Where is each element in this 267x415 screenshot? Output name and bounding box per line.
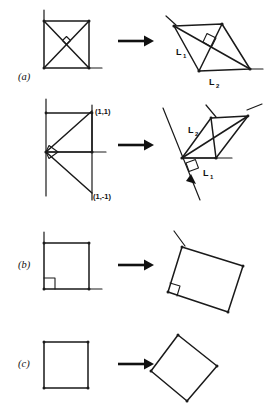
- vertex-dot: [43, 288, 46, 291]
- right-angle-marker: [186, 160, 198, 172]
- vertex-dot: [210, 117, 213, 120]
- segment-label-L1: L: [203, 168, 209, 178]
- vertex-dot: [227, 311, 230, 314]
- source-square-right-angle: [43, 232, 103, 291]
- axis-line-tilted: [163, 108, 200, 200]
- hypotenuse-lower: [46, 152, 92, 193]
- vertex-dot: [247, 115, 250, 118]
- vertex-dot: [197, 69, 200, 72]
- target-sheared-triangle-pair: L 2 L 1: [163, 104, 262, 200]
- shear-inner-edge: [211, 118, 216, 158]
- right-angle-marker: [44, 278, 55, 289]
- square-outline: [44, 342, 88, 388]
- row-4-group: [43, 334, 219, 403]
- point-label-1-1: (1,1): [95, 107, 111, 116]
- figure-container: L 1 L 2 (a): [0, 0, 267, 415]
- vertex-dot: [177, 334, 180, 337]
- vertex-dot: [180, 156, 183, 159]
- segment-label-L1-subscript: 1: [210, 174, 214, 180]
- vertex-dot: [88, 20, 91, 23]
- vertex-dot: [150, 370, 153, 373]
- target-rotated-rectangle: [167, 231, 245, 314]
- target-rotated-square: [150, 334, 219, 403]
- vertex-dot: [91, 112, 94, 115]
- vertex-dot: [220, 22, 223, 25]
- vertex-dot: [242, 265, 245, 268]
- vertex-dot: [172, 24, 175, 27]
- transformation-figure: L 1 L 2 (a): [0, 0, 267, 415]
- diagonal-2: [199, 24, 222, 71]
- vertex-dot: [214, 156, 217, 159]
- panel-label-c: (c): [18, 358, 30, 370]
- source-square-diagonals: [43, 10, 103, 70]
- panel-label-a: (a): [18, 71, 31, 83]
- segment-label-L2-subscript: 2: [216, 83, 220, 89]
- vertex-dot: [216, 365, 219, 368]
- arrow-row3: [118, 260, 154, 271]
- rotated-rectangle-outline: [168, 247, 243, 312]
- vertex-dot: [248, 67, 251, 70]
- arrow-row1: [118, 36, 154, 47]
- segment-label-L1-subscript: 1: [183, 53, 187, 59]
- vertex-dot: [88, 242, 91, 245]
- segment-label-L2: L: [188, 125, 194, 135]
- vertex-dot: [181, 246, 184, 249]
- segment-label-L2: L: [209, 77, 215, 87]
- vertex-dot: [167, 291, 170, 294]
- arrow-head: [144, 140, 154, 151]
- point-label-1-minus-1: (1,-1): [93, 192, 111, 201]
- arrow-head: [144, 36, 154, 47]
- vertex-dot: [43, 387, 46, 390]
- vertex-dot: [87, 387, 90, 390]
- source-right-triangle-pair: (1,1) (1,-1): [44, 99, 111, 201]
- vertex-dot: [88, 288, 91, 291]
- arrow-row4: [118, 359, 154, 370]
- vertex-dot: [43, 67, 46, 70]
- square-outline: [44, 243, 89, 289]
- row-2-group: (1,1) (1,-1): [44, 99, 262, 201]
- axis-tick-tilted-upper: [206, 105, 216, 117]
- vertex-dot: [44, 150, 47, 153]
- row-1-group: L 1 L 2: [43, 10, 264, 89]
- rotated-square-outline: [151, 335, 217, 401]
- vertex-dot: [43, 20, 46, 23]
- vertex-dot: [90, 150, 93, 153]
- source-plain-square: [43, 341, 90, 390]
- vertex-dot: [45, 112, 48, 115]
- panel-label-b: (b): [18, 259, 31, 271]
- vertex-dot: [87, 341, 90, 344]
- vertex-dot: [43, 341, 46, 344]
- segment-label-L1: L: [176, 47, 182, 57]
- vertex-dot: [88, 67, 91, 70]
- axis-tick-upper-right: [247, 104, 262, 110]
- vertex-dot: [186, 400, 189, 403]
- row-3-group: [43, 231, 245, 314]
- axis-tick-tilted: [166, 16, 176, 25]
- axis-arrow-tick: [186, 174, 196, 184]
- vertex-dot: [43, 242, 46, 245]
- arrow-row2: [118, 140, 154, 151]
- hypotenuse-upper: [46, 111, 92, 152]
- axis-tick-tilted: [174, 231, 185, 246]
- target-parallelogram-diagonals: L 1 L 2: [166, 16, 263, 89]
- arrow-head: [144, 260, 154, 271]
